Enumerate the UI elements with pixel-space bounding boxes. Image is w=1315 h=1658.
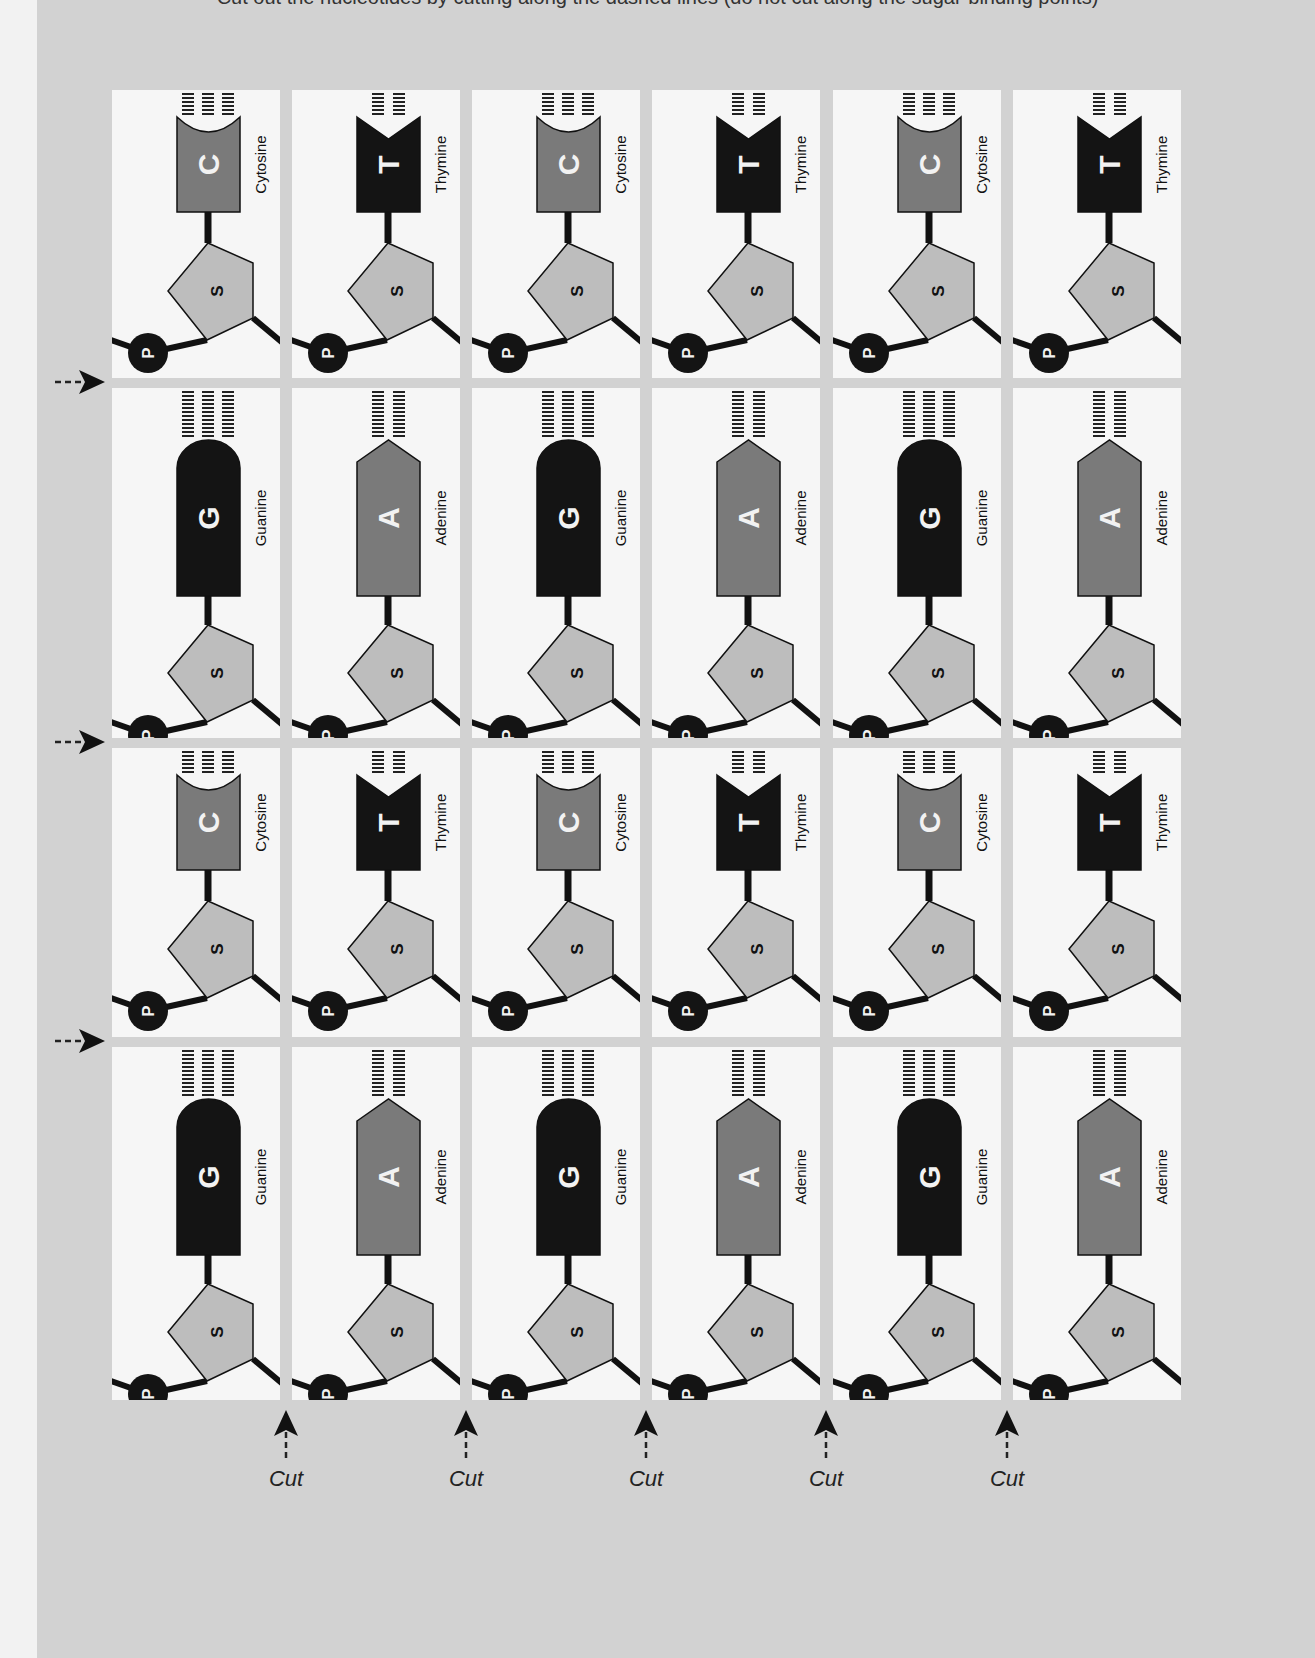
nucleotide-card-cytosine: C Cytosine S P: [472, 748, 640, 1037]
phosphate-label: P: [860, 1388, 879, 1399]
base-letter: T: [1093, 813, 1126, 831]
base-name-label: Thymine: [432, 794, 449, 852]
base-name-label: Adenine: [1153, 490, 1170, 545]
nucleotide-card-guanine: G Guanine S P: [112, 1047, 280, 1400]
hydrogen-bond-marks: [542, 93, 594, 115]
backbone-bond-out: [433, 318, 460, 344]
cut-marker: Cut: [256, 1410, 316, 1492]
sugar-label: S: [929, 285, 948, 296]
backbone-bond-out: [253, 976, 280, 1002]
base-name-label: Guanine: [612, 1149, 629, 1206]
hydrogen-bond-marks: [903, 751, 955, 773]
cut-arrow-right-icon: [55, 370, 105, 394]
sugar-label: S: [929, 943, 948, 954]
nucleotide-card-guanine: G Guanine S P: [472, 388, 640, 738]
nucleotide-card-guanine: G Guanine S P: [833, 388, 1001, 738]
sugar-label: S: [748, 1326, 767, 1337]
backbone-bond-out: [974, 700, 1001, 726]
base-letter: C: [552, 812, 585, 834]
hydrogen-bond-marks: [1093, 93, 1126, 115]
base-letter: C: [192, 154, 225, 176]
sugar-label: S: [208, 285, 227, 296]
cut-marker: Cut: [436, 1410, 496, 1492]
cut-arrow-up-icon: [814, 1410, 838, 1460]
cut-arrow-up-icon: [454, 1410, 478, 1460]
hydrogen-bond-marks: [182, 1050, 234, 1096]
backbone-bond-out: [1154, 1359, 1181, 1385]
base-name-label: Adenine: [1153, 1149, 1170, 1204]
hydrogen-bond-marks: [732, 391, 765, 437]
backbone-bond-out: [1154, 976, 1181, 1002]
cut-arrow-right-icon: [55, 1029, 105, 1053]
left-margin: [0, 0, 37, 1658]
hydrogen-bond-marks: [182, 93, 234, 115]
cut-arrow-up-icon: [274, 1410, 298, 1460]
phosphate-label: P: [679, 729, 698, 738]
hydrogen-bond-marks: [372, 391, 405, 437]
phosphate-label: P: [139, 1005, 158, 1016]
cut-arrow-right-icon: [55, 730, 105, 754]
backbone-bond-out: [253, 700, 280, 726]
nucleotide-card-thymine: T Thymine S P: [652, 748, 820, 1037]
base-letter: C: [913, 154, 946, 176]
sugar-label: S: [388, 943, 407, 954]
base-letter: A: [1093, 1166, 1126, 1188]
base-letter: T: [372, 155, 405, 173]
nucleotide-card-adenine: A Adenine S P: [652, 1047, 820, 1400]
base-name-label: Thymine: [432, 136, 449, 194]
base-letter: C: [913, 812, 946, 834]
base-name-label: Adenine: [792, 490, 809, 545]
phosphate-label: P: [499, 1005, 518, 1016]
backbone-bond-out: [1154, 700, 1181, 726]
backbone-bond-out: [613, 318, 640, 344]
phosphate-label: P: [679, 347, 698, 358]
nucleotide-card-cytosine: C Cytosine S P: [112, 748, 280, 1037]
nucleotide-card-cytosine: C Cytosine S P: [112, 90, 280, 378]
phosphate-label: P: [319, 347, 338, 358]
sugar-label: S: [1109, 943, 1128, 954]
phosphate-label: P: [1040, 1005, 1059, 1016]
hydrogen-bond-marks: [372, 93, 405, 115]
hydrogen-bond-marks: [903, 93, 955, 115]
phosphate-label: P: [679, 1388, 698, 1399]
sugar-label: S: [1109, 1326, 1128, 1337]
sugar-label: S: [568, 667, 587, 678]
base-letter: T: [732, 155, 765, 173]
phosphate-label: P: [1040, 1388, 1059, 1399]
phosphate-label: P: [1040, 729, 1059, 738]
phosphate-label: P: [139, 1388, 158, 1399]
instruction-caption: Cut out the nucleotides by cutting along…: [0, 0, 1315, 9]
base-letter: A: [372, 507, 405, 529]
base-name-label: Adenine: [792, 1149, 809, 1204]
nucleotide-card-cytosine: C Cytosine S P: [833, 90, 1001, 378]
base-name-label: Thymine: [792, 794, 809, 852]
nucleotide-card-guanine: G Guanine S P: [833, 1047, 1001, 1400]
sugar-label: S: [388, 667, 407, 678]
cut-marker: Cut: [616, 1410, 676, 1492]
hydrogen-bond-marks: [732, 93, 765, 115]
sugar-label: S: [568, 285, 587, 296]
backbone-bond-out: [974, 318, 1001, 344]
phosphate-label: P: [860, 347, 879, 358]
base-letter: T: [1093, 155, 1126, 173]
nucleotide-card-thymine: T Thymine S P: [652, 90, 820, 378]
cut-arrow-up-icon: [634, 1410, 658, 1460]
cut-label: Cut: [256, 1466, 316, 1492]
cut-arrow-up-icon: [995, 1410, 1019, 1460]
nucleotide-card-thymine: T Thymine S P: [292, 90, 460, 378]
base-letter: G: [552, 506, 585, 529]
backbone-bond-out: [433, 700, 460, 726]
backbone-bond-out: [613, 700, 640, 726]
nucleotide-card-adenine: A Adenine S P: [1013, 1047, 1181, 1400]
phosphate-label: P: [319, 1005, 338, 1016]
sugar-label: S: [568, 1326, 587, 1337]
sugar-label: S: [568, 943, 587, 954]
base-name-label: Guanine: [612, 490, 629, 547]
phosphate-label: P: [499, 347, 518, 358]
cut-marker: Cut: [977, 1410, 1037, 1492]
backbone-bond-out: [793, 700, 820, 726]
backbone-bond-out: [1154, 318, 1181, 344]
hydrogen-bond-marks: [903, 1050, 955, 1096]
base-letter: A: [732, 507, 765, 529]
base-letter: C: [552, 154, 585, 176]
